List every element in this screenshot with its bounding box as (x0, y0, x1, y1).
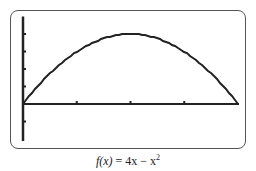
axes (23, 17, 239, 142)
caption-exponent: 2 (156, 153, 160, 162)
caption-fx: f(x) (96, 154, 113, 168)
function-caption: f(x) = 4x − x2 (0, 153, 256, 169)
caption-expression: = 4x − x (113, 154, 157, 168)
function-curve (23, 34, 238, 104)
plot-area (0, 0, 256, 171)
